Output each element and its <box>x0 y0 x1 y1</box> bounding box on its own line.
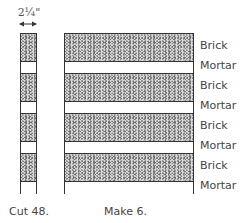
brick-segment <box>21 34 36 61</box>
row-label: Brick <box>200 79 228 92</box>
mortar-segment <box>65 61 193 74</box>
brick-segment <box>65 114 193 141</box>
cut-caption: Cut 48. <box>9 205 49 218</box>
mortar-segment <box>65 141 193 154</box>
row-label: Brick <box>200 159 228 172</box>
row-label: Mortar <box>200 99 236 112</box>
brick-segment <box>65 74 193 101</box>
mortar-segment <box>65 181 193 194</box>
row-label: Mortar <box>200 179 236 192</box>
mortar-segment <box>21 141 36 154</box>
mortar-segment <box>21 61 36 74</box>
strip-set-block <box>64 33 194 194</box>
row-label: Mortar <box>200 59 236 72</box>
mortar-segment <box>21 181 36 194</box>
brick-segment <box>21 114 36 141</box>
brick-segment <box>65 34 193 61</box>
make-caption: Make 6. <box>104 205 147 218</box>
brick-segment <box>65 154 193 181</box>
brick-segment <box>21 154 36 181</box>
width-dimension-label: 2¼" <box>16 6 42 19</box>
row-label: Brick <box>200 39 228 52</box>
mortar-segment <box>21 101 36 114</box>
cut-strip <box>20 33 37 194</box>
row-label: Mortar <box>200 139 236 152</box>
mortar-segment <box>65 101 193 114</box>
row-label: Brick <box>200 119 228 132</box>
brick-segment <box>21 74 36 101</box>
double-arrow-icon <box>19 21 37 27</box>
